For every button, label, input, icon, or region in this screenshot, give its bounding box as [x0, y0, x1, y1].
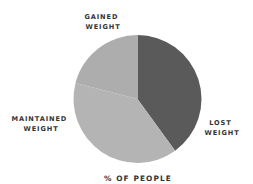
pie-chart: GAINED WEIGHT MAINTAINED WEIGHT LOST WEI…: [0, 0, 253, 184]
slice-label-line: WEIGHT: [85, 23, 120, 31]
slice-label-line: LOST: [209, 119, 231, 127]
axis-label: % OF PEOPLE: [104, 174, 172, 183]
slice-label-lost-weight: LOST WEIGHT: [204, 119, 239, 137]
slice-label-line: WEIGHT: [204, 129, 239, 137]
slice-label-line: GAINED: [84, 13, 118, 21]
pie-slices: [74, 35, 202, 163]
slice-label-line: WEIGHT: [23, 125, 58, 133]
slice-label-maintained-weight: MAINTAINED WEIGHT: [12, 115, 71, 133]
slice-label-line: MAINTAINED: [12, 115, 68, 123]
slice-label-gained-weight: GAINED WEIGHT: [84, 13, 121, 31]
